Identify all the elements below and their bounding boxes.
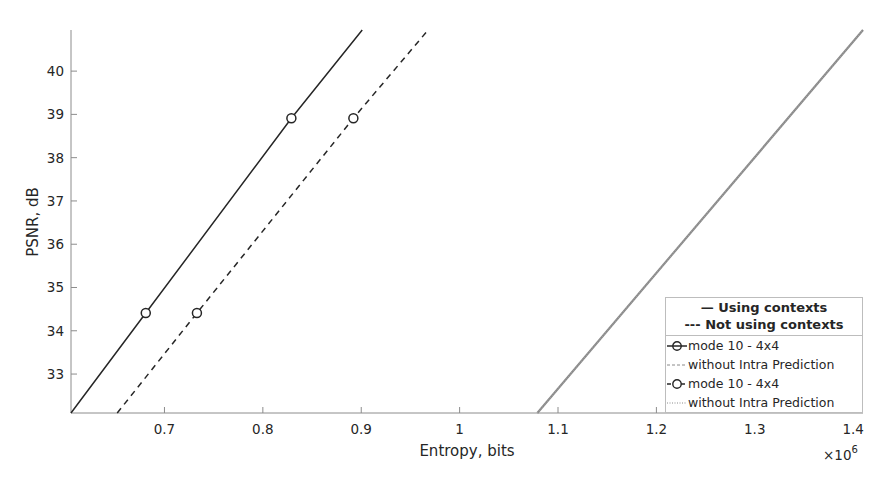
y-tick-label: 35 <box>47 279 64 295</box>
legend-header: — Using contexts --- Not using contexts <box>666 298 862 336</box>
data-point-marker <box>192 309 201 318</box>
legend-label: without Intra Prediction <box>688 395 834 410</box>
legend-label: without Intra Prediction <box>688 357 834 372</box>
y-axis-label: PSNR, dB <box>24 187 42 257</box>
y-tick-label: 33 <box>47 366 64 382</box>
series-line <box>71 30 362 413</box>
legend-entry: mode 10 - 4x4 <box>666 374 862 393</box>
legend-entry: without Intra Prediction <box>666 393 862 412</box>
x-tick-label: 1.3 <box>744 421 765 437</box>
x-axis-label: Entropy, bits <box>419 442 514 460</box>
data-point-marker <box>141 309 150 318</box>
y-tick-label: 39 <box>47 106 64 122</box>
legend: — Using contexts --- Not using contexts … <box>665 297 863 413</box>
legend-entry: mode 10 - 4x4 <box>666 336 862 355</box>
data-point-marker <box>287 114 296 123</box>
y-tick-label: 36 <box>47 236 64 252</box>
x-multiplier: ×106 <box>823 444 858 463</box>
gray-dashed-line-icon <box>666 358 688 372</box>
data-point-marker <box>349 114 358 123</box>
x-tick-label: 1 <box>455 421 464 437</box>
legend-label: mode 10 - 4x4 <box>688 338 779 353</box>
dashed-line-circle-marker-icon <box>666 377 688 391</box>
legend-entry: without Intra Prediction <box>666 355 862 374</box>
legend-header-not-using: --- Not using contexts <box>670 316 858 333</box>
y-tick-label: 37 <box>47 193 64 209</box>
legend-label: mode 10 - 4x4 <box>688 376 779 391</box>
legend-header-using: — Using contexts <box>670 299 858 316</box>
y-tick-label: 38 <box>47 150 64 166</box>
x-tick-label: 0.7 <box>154 421 175 437</box>
y-tick-label: 40 <box>47 63 64 79</box>
x-tick-label: 0.8 <box>252 421 273 437</box>
x-tick-label: 0.9 <box>350 421 371 437</box>
x-tick-label: 1.2 <box>646 421 667 437</box>
series-line <box>117 30 428 413</box>
x-tick-label: 1.4 <box>842 421 863 437</box>
x-tick-label: 1.1 <box>547 421 568 437</box>
y-tick-label: 34 <box>47 323 64 339</box>
solid-line-circle-marker-icon <box>666 339 688 353</box>
gray-dotted-line-icon <box>666 396 688 410</box>
